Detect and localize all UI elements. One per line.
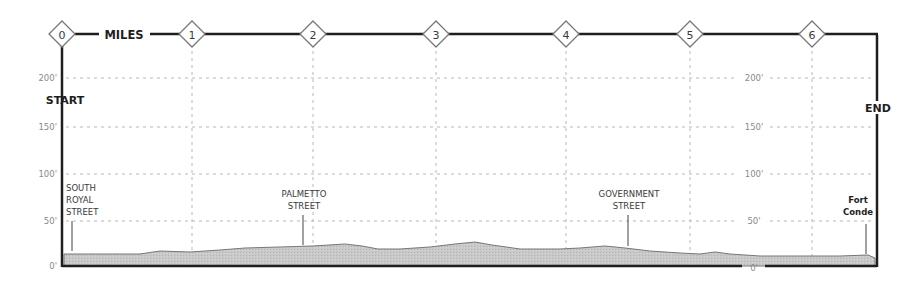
mile-marker-6: 6 [799, 21, 825, 47]
right-tick-0: 0' [750, 263, 758, 273]
mile-marker-5: 5 [677, 21, 703, 47]
svg-text:2: 2 [310, 29, 317, 42]
left-tick-0: 0' [49, 261, 57, 271]
left-tick-50: 50' [44, 216, 57, 226]
left-tick-100: 100' [38, 169, 57, 179]
left-tick-150: 150' [38, 122, 57, 132]
annotation-government-street: GOVERNMENT STREET [599, 189, 661, 246]
svg-text:STREET: STREET [613, 201, 646, 211]
annotation-fort-conde: Fort Conde [843, 195, 873, 254]
svg-text:Fort: Fort [848, 195, 868, 205]
horizontal-gridlines [66, 78, 873, 221]
mile-marker-2: 2 [300, 21, 326, 47]
start-label: START [46, 94, 85, 107]
svg-text:ROYAL: ROYAL [66, 195, 93, 205]
svg-text:Conde: Conde [843, 207, 873, 217]
mile-marker-0: 0 [49, 21, 75, 47]
miles-label: MILES [104, 28, 143, 42]
right-y-axis-ticks: 200' 150' 100' 50' 0' [745, 73, 764, 273]
svg-text:GOVERNMENT: GOVERNMENT [599, 189, 661, 199]
svg-text:STREET: STREET [288, 201, 321, 211]
right-tick-50: 50' [747, 216, 760, 226]
elevation-profile-chart: 0 1 2 3 4 5 6 MILES START END [0, 0, 924, 288]
svg-text:SOUTH: SOUTH [66, 183, 96, 193]
right-tick-100: 100' [745, 169, 764, 179]
svg-text:5: 5 [687, 29, 694, 42]
svg-text:4: 4 [563, 29, 570, 42]
svg-text:3: 3 [433, 29, 440, 42]
end-label: END [865, 102, 891, 115]
right-tick-200: 200' [745, 73, 764, 83]
annotation-palmetto-street: PALMETTO STREET [282, 189, 327, 245]
mile-marker-1: 1 [179, 21, 205, 47]
axis-frame [62, 34, 878, 267]
annotation-south-royal-street: SOUTH ROYAL STREET [66, 183, 99, 251]
mile-marker-3: 3 [423, 21, 449, 47]
svg-text:STREET: STREET [66, 207, 99, 217]
right-tick-150: 150' [745, 122, 764, 132]
svg-text:1: 1 [189, 29, 196, 42]
svg-text:PALMETTO: PALMETTO [282, 189, 327, 199]
left-tick-200: 200' [38, 73, 57, 83]
mile-marker-4: 4 [553, 21, 579, 47]
vertical-gridlines [192, 44, 812, 266]
svg-text:0: 0 [59, 29, 66, 42]
svg-text:6: 6 [809, 29, 816, 42]
